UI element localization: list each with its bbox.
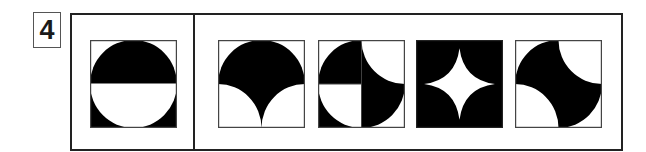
- option-figure-3[interactable]: [416, 40, 503, 128]
- option-figure-1[interactable]: [218, 40, 305, 128]
- option-figure-4[interactable]: [515, 40, 602, 128]
- question-number-badge: 4: [33, 12, 61, 48]
- option-figure-2[interactable]: [318, 40, 405, 128]
- frame-divider: [193, 13, 195, 151]
- question-number: 4: [39, 15, 54, 46]
- given-figure: [90, 40, 177, 128]
